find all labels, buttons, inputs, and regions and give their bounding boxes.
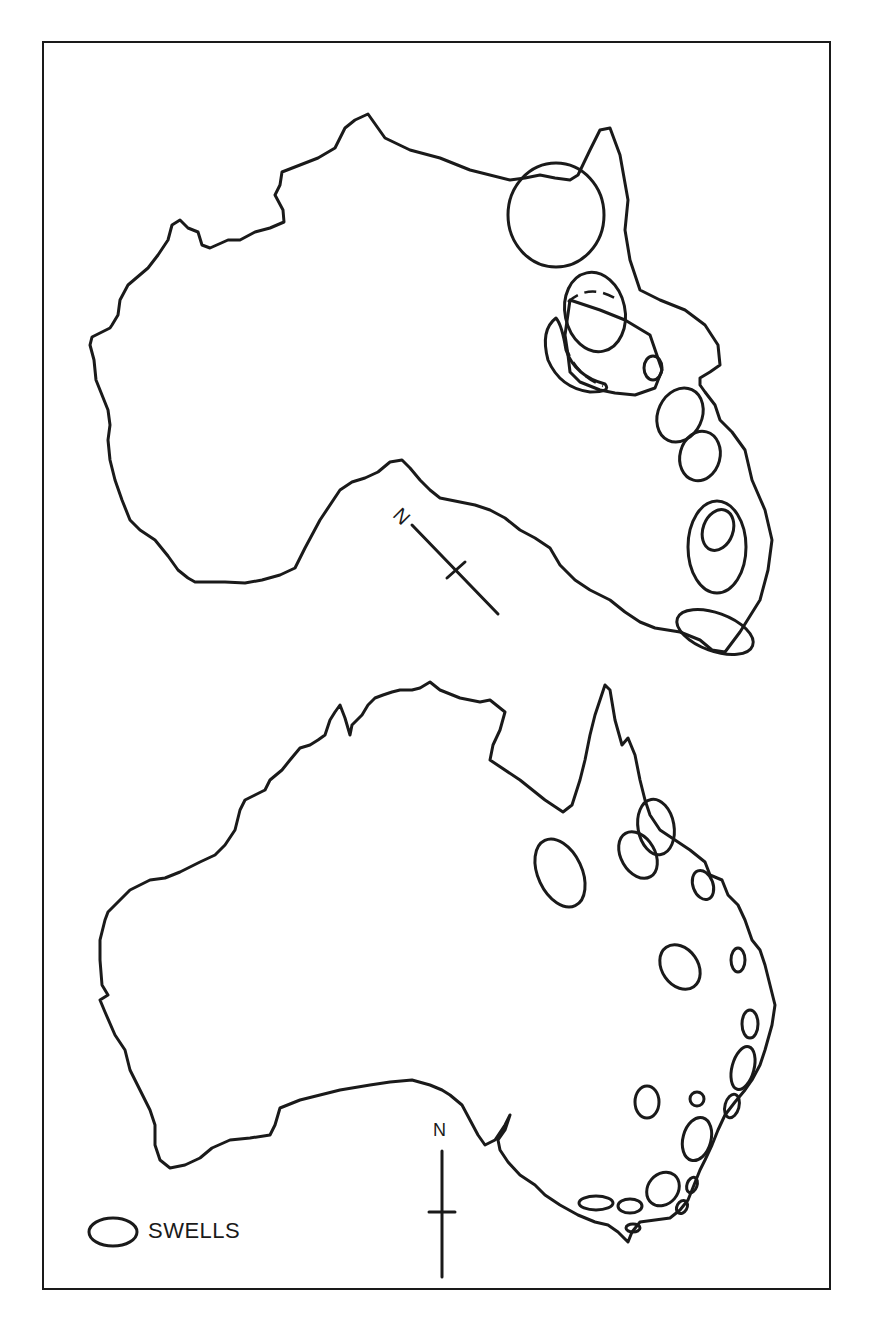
swell-top-4 bbox=[545, 318, 606, 392]
swell-bottom-16 bbox=[579, 1196, 613, 1210]
swell-top-9 bbox=[697, 505, 740, 555]
swell-top-8 bbox=[688, 501, 746, 593]
swell-bottom-6 bbox=[731, 948, 745, 972]
swell-bottom-13 bbox=[640, 1166, 686, 1213]
swell-bottom-1 bbox=[633, 796, 678, 857]
north-arrow-bottom bbox=[429, 1151, 455, 1277]
top-continent-outline bbox=[90, 114, 772, 652]
north-arrow-top: N bbox=[389, 503, 498, 614]
swell-top-10 bbox=[671, 600, 759, 663]
swell-bottom-17 bbox=[618, 1199, 642, 1213]
bottom-continent-outline bbox=[100, 682, 775, 1242]
swell-bottom-9 bbox=[635, 1086, 659, 1118]
north-label-bottom: N bbox=[433, 1120, 447, 1141]
swell-bottom-4 bbox=[688, 867, 717, 902]
swell-bottom-10 bbox=[690, 1092, 704, 1106]
swell-bottom-8 bbox=[727, 1044, 760, 1092]
swell-bottom-14 bbox=[685, 1176, 700, 1194]
legend-swell-symbol bbox=[89, 1218, 137, 1246]
swell-top-6 bbox=[648, 380, 712, 449]
bottom-panel bbox=[100, 682, 775, 1277]
swell-bottom-2 bbox=[611, 825, 665, 885]
legend-swells-label: SWELLS bbox=[148, 1218, 240, 1244]
swell-bottom-5 bbox=[651, 937, 708, 997]
swell-bottom-18 bbox=[626, 1224, 640, 1232]
top-panel: N bbox=[90, 114, 772, 664]
swell-bottom-12 bbox=[678, 1114, 716, 1164]
swell-bottom-3 bbox=[525, 831, 595, 915]
swell-top-7 bbox=[674, 427, 726, 486]
swell-top-5 bbox=[644, 356, 662, 380]
swell-bottom-7 bbox=[742, 1010, 758, 1038]
